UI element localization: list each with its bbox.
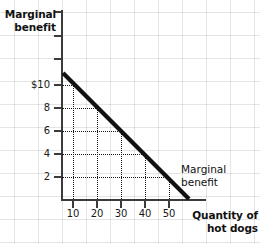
y-axis-label-2: 2 bbox=[6, 172, 50, 182]
x-axis-title-line-2: hot dogs bbox=[180, 222, 258, 235]
guide-line-horizontal-8 bbox=[62, 108, 98, 109]
y-axis-tick-8 bbox=[54, 107, 62, 109]
y-axis-label-6: 6 bbox=[6, 126, 50, 136]
curve-layer bbox=[0, 0, 260, 244]
x-axis-label-50: 50 bbox=[155, 209, 183, 219]
guide-line-vertical-40 bbox=[145, 154, 146, 199]
x-axis-tick-50 bbox=[168, 201, 170, 208]
x-axis-title: Quantity of hot dogs bbox=[180, 209, 258, 234]
y-axis-tick-10 bbox=[54, 84, 62, 86]
y-axis-tick-4 bbox=[54, 153, 62, 155]
guide-line-vertical-50 bbox=[169, 177, 170, 199]
y-axis-tick-unlabeled bbox=[54, 58, 62, 60]
y-axis-line bbox=[61, 10, 63, 201]
marginal-benefit-curve bbox=[63, 73, 189, 199]
curve-annotation-marginal-benefit: Marginal benefit bbox=[181, 163, 255, 189]
y-axis-title: Marginal benefit bbox=[4, 8, 56, 33]
guide-line-horizontal-6 bbox=[62, 131, 122, 132]
marginal-benefit-chart: $10 8 6 4 2 10 20 30 40 50 Marginal bene… bbox=[0, 0, 260, 244]
guide-line-horizontal-4 bbox=[62, 154, 146, 155]
guide-line-vertical-10 bbox=[73, 85, 74, 199]
curve-annotation-line-2: benefit bbox=[181, 176, 255, 189]
y-axis-tick-2 bbox=[54, 176, 62, 178]
guide-line-vertical-20 bbox=[97, 108, 98, 199]
y-axis-label-10: $10 bbox=[6, 80, 50, 90]
x-axis-line bbox=[61, 199, 206, 201]
y-axis-title-line-2: benefit bbox=[4, 21, 56, 34]
guide-line-vertical-30 bbox=[121, 131, 122, 199]
y-axis-label-4: 4 bbox=[6, 149, 50, 159]
y-axis-title-line-1: Marginal bbox=[4, 8, 56, 21]
x-axis-title-line-1: Quantity of bbox=[180, 209, 258, 222]
x-axis-tick-40 bbox=[144, 201, 146, 208]
x-axis-tick-10 bbox=[72, 201, 74, 208]
y-axis-tick-6 bbox=[54, 130, 62, 132]
y-axis-tick-unlabeled bbox=[54, 35, 62, 37]
y-axis-label-8: 8 bbox=[6, 103, 50, 113]
x-axis-tick-20 bbox=[96, 201, 98, 208]
curve-annotation-line-1: Marginal bbox=[181, 163, 255, 176]
guide-line-horizontal-2 bbox=[62, 177, 170, 178]
x-axis-tick-30 bbox=[120, 201, 122, 208]
